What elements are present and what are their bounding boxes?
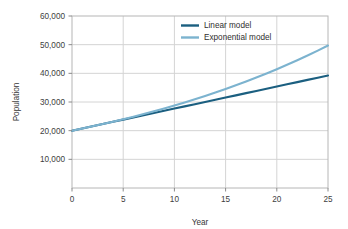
x-tick-label-20: 20	[272, 195, 282, 204]
y-tick-label-60000: 60,000	[40, 12, 65, 21]
x-tick-label-15: 15	[221, 195, 231, 204]
y-tick-label-10000: 10,000	[40, 155, 65, 164]
x-tick-label-5: 5	[121, 195, 126, 204]
x-axis-title: Year	[192, 218, 209, 227]
y-tick-label-20000: 20,000	[40, 127, 65, 136]
chart-figure: 0510152025 10,00020,00030,00040,00050,00…	[0, 0, 348, 229]
legend-label-linear-model: Linear model	[204, 21, 252, 30]
legend-label-exponential-model: Exponential model	[204, 33, 272, 42]
y-tick-label-30000: 30,000	[40, 98, 65, 107]
x-tick-label-0: 0	[70, 195, 75, 204]
y-tick-label-50000: 50,000	[40, 41, 65, 50]
y-tick-label-40000: 40,000	[40, 69, 65, 78]
x-tick-label-25: 25	[323, 195, 333, 204]
population-models-line-chart: 0510152025 10,00020,00030,00040,00050,00…	[0, 0, 348, 229]
x-tick-label-10: 10	[170, 195, 180, 204]
y-axis-title: Population	[12, 82, 21, 121]
